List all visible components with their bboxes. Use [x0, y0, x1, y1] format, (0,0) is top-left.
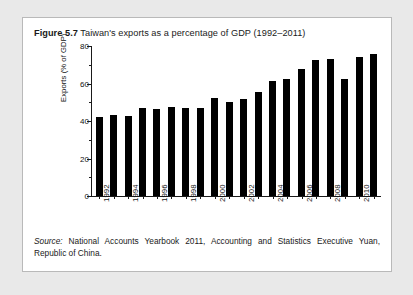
x-tick-label: 1994: [131, 184, 140, 202]
x-tick-mark: [302, 196, 303, 199]
chart-plot-area: Exports (% of GDP) 020406080 19921994199…: [23, 46, 393, 234]
chart-axes: [91, 46, 381, 196]
bar: [327, 59, 334, 196]
x-tick-mark: [316, 196, 317, 199]
y-tick-mark-minor: [89, 102, 92, 103]
bar: [197, 108, 204, 196]
y-tick-mark: [87, 84, 91, 85]
bar: [341, 79, 348, 196]
x-tick-mark: [143, 196, 144, 199]
x-tick-label: 1992: [102, 184, 111, 202]
x-tick-mark: [215, 196, 216, 199]
y-tick-mark-minor: [89, 177, 92, 178]
bar: [211, 98, 218, 196]
figure-title: Figure 5.7 Taiwan's exports as a percent…: [34, 28, 384, 38]
x-tick-label: 2010: [362, 184, 371, 202]
bar: [269, 81, 276, 196]
bar: [312, 60, 319, 196]
x-tick-label: 2008: [333, 184, 342, 202]
x-tick-label: 2006: [305, 184, 314, 202]
x-tick-label: 1998: [189, 184, 198, 202]
x-tick-mark: [330, 196, 331, 199]
x-tick-mark: [345, 196, 346, 199]
x-tick-label: 1996: [160, 184, 169, 202]
x-tick-mark: [374, 196, 375, 199]
x-tick-mark: [114, 196, 115, 199]
bar: [153, 109, 160, 196]
bar-series: [92, 46, 381, 196]
x-tick-mark: [273, 196, 274, 199]
y-tick-mark-minor: [89, 65, 92, 66]
y-tick-mark: [87, 121, 91, 122]
bar: [298, 69, 305, 197]
x-tick-mark: [258, 196, 259, 199]
bar: [283, 79, 290, 196]
y-axis-tick-labels: 020406080: [67, 46, 89, 196]
x-tick-mark: [287, 196, 288, 199]
y-tick-mark-minor: [89, 140, 92, 141]
x-tick-mark: [359, 196, 360, 199]
x-tick-mark: [244, 196, 245, 199]
x-tick-label: 2002: [247, 184, 256, 202]
page-background: Figure 5.7 Taiwan's exports as a percent…: [0, 0, 413, 295]
source-note: Source: National Accounts Yearbook 2011,…: [34, 236, 380, 259]
y-tick-mark: [87, 159, 91, 160]
x-tick-label: 2004: [276, 184, 285, 202]
y-tick-mark: [87, 46, 91, 47]
bar: [110, 115, 117, 196]
x-tick-mark: [99, 196, 100, 199]
source-text: National Accounts Yearbook 2011, Account…: [34, 236, 380, 258]
x-tick-mark: [128, 196, 129, 199]
figure-number: Figure 5.7: [34, 28, 78, 38]
bar: [356, 57, 363, 196]
bar: [139, 108, 146, 196]
x-axis-tick-labels: 1992199419961998200020022004200620082010: [92, 196, 381, 234]
bar: [226, 102, 233, 196]
x-tick-mark: [229, 196, 230, 199]
x-tick-label: 2000: [218, 184, 227, 202]
bar: [168, 107, 175, 196]
bar: [255, 92, 262, 196]
figure-title-text: Taiwan's exports as a percentage of GDP …: [80, 28, 305, 38]
y-tick-mark: [87, 196, 91, 197]
x-tick-mark: [186, 196, 187, 199]
bar: [370, 54, 377, 197]
figure-container: Figure 5.7 Taiwan's exports as a percent…: [22, 17, 392, 272]
source-label: Source:: [34, 236, 63, 246]
x-tick-mark: [171, 196, 172, 199]
bar: [240, 99, 247, 197]
bar: [182, 108, 189, 196]
x-tick-mark: [157, 196, 158, 199]
x-tick-mark: [200, 196, 201, 199]
